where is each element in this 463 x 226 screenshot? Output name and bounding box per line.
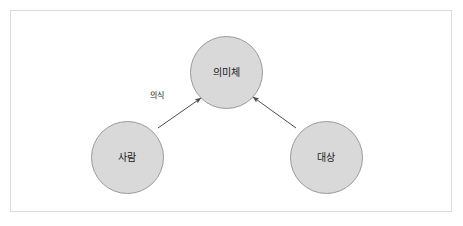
node-object-label: 대상	[317, 153, 336, 163]
node-semantic-body[interactable]: 의미체	[190, 36, 263, 109]
edge-object-to-semantic-body	[253, 97, 296, 128]
node-object[interactable]: 대상	[290, 121, 363, 194]
diagram-canvas: 의미체 사람 대상 의식	[0, 0, 463, 226]
diagram-edges-layer	[0, 0, 463, 226]
edge-person-to-semantic-body	[158, 98, 201, 128]
node-person-label: 사람	[118, 153, 137, 163]
node-semantic-body-label: 의미체	[213, 68, 241, 78]
edge-label-consciousness: 의식	[150, 92, 164, 100]
node-person[interactable]: 사람	[91, 121, 164, 194]
